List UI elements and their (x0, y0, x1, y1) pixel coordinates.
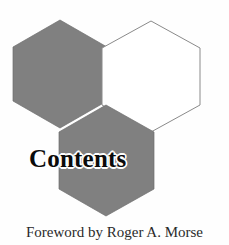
page-title: Contents (29, 146, 126, 172)
hexagon-upper-left (13, 20, 107, 128)
foreword-credit: Foreword by Roger A. Morse (0, 223, 229, 241)
honeycomb-artwork (0, 0, 229, 245)
book-section-divider-page: Contents Foreword by Roger A. Morse (0, 0, 229, 245)
